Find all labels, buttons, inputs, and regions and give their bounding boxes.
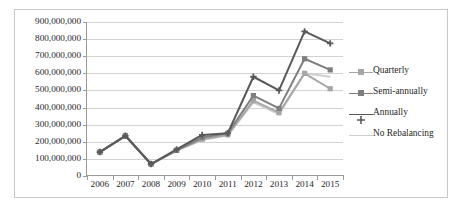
data-point-marker [251, 93, 256, 98]
legend-item-label: No Rebalancing [373, 128, 434, 139]
series-quarterly [97, 71, 333, 167]
y-tick-mark [83, 142, 87, 143]
y-tick-mark [83, 39, 87, 40]
data-point-marker [328, 86, 333, 91]
x-axis-tick-label: 2013 [270, 180, 288, 189]
x-axis-tick-label: 2010 [193, 180, 211, 189]
series-line [100, 59, 330, 164]
data-point-marker [302, 56, 307, 61]
y-tick-mark [83, 159, 87, 160]
y-axis-labels: 900,000,000800,000,000700,000,000600,000… [15, 22, 83, 176]
legend-cross-marker-icon [357, 110, 365, 118]
legend-key-icon [349, 109, 373, 119]
x-axis-tick-label: 2015 [321, 180, 339, 189]
series-semi-annually [97, 56, 333, 166]
legend-item-annually[interactable]: Annually [349, 107, 445, 119]
y-tick-mark [83, 90, 87, 91]
data-point-marker [301, 28, 307, 34]
x-axis-tick-label: 2006 [91, 180, 109, 189]
y-tick-mark [83, 56, 87, 57]
y-tick-mark [83, 22, 87, 23]
y-axis-tick-label: 100,000,000 [35, 154, 81, 163]
y-axis-tick-label: 400,000,000 [35, 103, 81, 112]
x-tick-mark [343, 176, 344, 180]
legend-key-icon [349, 67, 373, 77]
data-point-marker [302, 71, 307, 76]
y-axis-tick-label: 500,000,000 [35, 86, 81, 95]
x-axis-tick-label: 2014 [295, 180, 313, 189]
legend-item-label: Semi-annually [373, 86, 428, 97]
legend-square-marker-icon [358, 90, 364, 96]
x-axis-tick-label: 2011 [219, 180, 237, 189]
legend-item-label: Quarterly [373, 65, 409, 76]
legend-key-icon [349, 88, 373, 98]
data-point-marker [276, 106, 281, 111]
y-axis-tick-label: 600,000,000 [35, 69, 81, 78]
y-axis-tick-label: 800,000,000 [35, 35, 81, 44]
data-point-marker [327, 40, 333, 46]
y-axis-tick-label: 200,000,000 [35, 137, 81, 146]
series-line [100, 73, 330, 164]
legend-line-swatch [349, 135, 373, 137]
y-tick-mark [83, 108, 87, 109]
y-axis-tick-label: 700,000,000 [35, 52, 81, 61]
series-line [100, 31, 330, 164]
x-axis-tick-label: 2008 [142, 180, 160, 189]
y-tick-mark [83, 73, 87, 74]
y-tick-mark [83, 125, 87, 126]
legend-item-label: Annually [373, 107, 408, 118]
legend-item-quarterly[interactable]: Quarterly [349, 65, 445, 77]
x-axis-tick-label: 2012 [244, 180, 262, 189]
legend-item-semi-annually[interactable]: Semi-annually [349, 86, 445, 98]
legend-item-no-rebalancing[interactable]: No Rebalancing [349, 128, 445, 140]
data-point-marker [328, 67, 333, 72]
x-axis-tick-label: 2007 [116, 180, 134, 189]
x-axis-tick-label: 2009 [167, 180, 185, 189]
chart-legend: QuarterlySemi-annuallyAnnuallyNo Rebalan… [349, 65, 445, 149]
y-axis-tick-label: 0 [76, 171, 81, 180]
series-plot [87, 22, 343, 176]
y-axis-tick-label: 300,000,000 [35, 120, 81, 129]
series-annually [97, 28, 334, 167]
legend-square-marker-icon [358, 69, 364, 75]
legend-key-icon [349, 130, 373, 140]
plot-area [87, 22, 343, 176]
chart-frame: 900,000,000800,000,000700,000,000600,000… [14, 9, 448, 198]
y-axis-tick-label: 900,000,000 [35, 17, 81, 26]
x-axis-labels: 2006200720082009201020112012201320142015 [87, 180, 343, 196]
